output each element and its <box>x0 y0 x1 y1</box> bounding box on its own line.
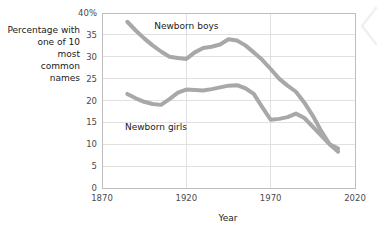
y-tick-label-0: 0 <box>92 183 97 193</box>
y-tick-label-15: 15 <box>86 117 97 127</box>
x-tick-label-1970: 1970 <box>260 193 282 203</box>
series-label-newborn-girls: Newborn girls <box>125 122 187 132</box>
y-tick-label-20: 20 <box>86 96 97 106</box>
x-axis-tick-labels: 1870192019702020 <box>91 193 366 203</box>
y-tick-label-25: 25 <box>86 74 97 84</box>
chart-figure: 0510152025303540% 1870192019702020 Newbo… <box>0 0 379 228</box>
y-tick-label-40: 40% <box>78 8 97 18</box>
x-tick-label-2020: 2020 <box>344 193 366 203</box>
x-axis-title: Year <box>217 213 237 223</box>
y-tick-label-30: 30 <box>86 52 97 62</box>
x-tick-label-1870: 1870 <box>91 193 113 203</box>
series-label-newborn-boys: Newborn boys <box>154 21 219 31</box>
y-axis-title: Percentage withone of 10mostcommonnames <box>7 25 80 83</box>
y-axis-title-line-3: common <box>41 61 80 71</box>
y-axis-title-line-1: one of 10 <box>37 37 80 47</box>
y-axis-title-line-2: most <box>58 49 81 59</box>
x-tick-label-1920: 1920 <box>176 193 198 203</box>
y-axis-tick-labels: 0510152025303540% <box>78 8 97 193</box>
y-axis-title-line-4: names <box>50 73 81 83</box>
y-axis-title-line-0: Percentage with <box>7 25 80 35</box>
y-tick-label-35: 35 <box>86 30 97 40</box>
decorative-bracket-icon <box>362 8 376 44</box>
y-tick-label-5: 5 <box>92 161 97 171</box>
y-tick-label-10: 10 <box>86 139 97 149</box>
names-popularity-line-chart: 0510152025303540% 1870192019702020 Newbo… <box>0 0 379 228</box>
